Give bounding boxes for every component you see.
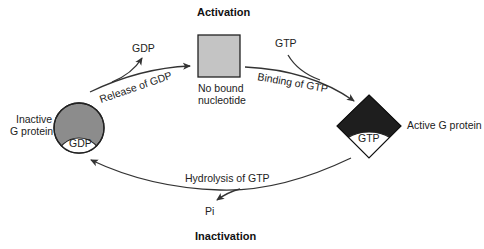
release-gdp-edge: Release of GDP GDP: [90, 42, 190, 105]
hydrolysis-gtp-label: Hydrolysis of GTP: [185, 172, 270, 184]
no-bound-label-line1: No bound: [198, 82, 244, 94]
active-label: Active G protein: [407, 119, 482, 131]
pi-label: Pi: [205, 205, 214, 217]
binding-gtp-edge: GTP Binding of GTP: [245, 37, 354, 101]
hydrolysis-gtp-edge: Hydrolysis of GTP Pi: [91, 158, 351, 217]
inactive-g-protein-node: GDP: [54, 103, 104, 178]
activation-title: Activation: [197, 6, 250, 18]
no-bound-label-line2: nucleotide: [198, 94, 246, 106]
gdp-bound-label: GDP: [69, 137, 92, 149]
no-nucleotide-node: [198, 35, 240, 77]
gdp-released-label: GDP: [132, 42, 155, 54]
g-protein-cycle-diagram: Activation Inactivation GDP Inactive G p…: [0, 0, 484, 249]
gtp-bound-label: GTP: [358, 132, 380, 144]
gtp-input-label: GTP: [275, 37, 297, 49]
inactivation-title: Inactivation: [195, 230, 256, 242]
inactive-label-line1: Inactive: [16, 113, 52, 125]
inactive-label-line2: G protein: [10, 125, 53, 137]
